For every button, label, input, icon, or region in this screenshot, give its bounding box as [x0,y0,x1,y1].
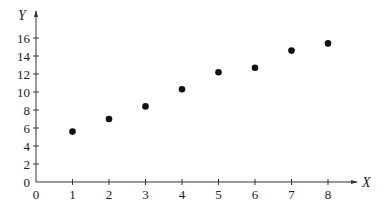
data-point [252,64,259,71]
y-tick-label: 6 [24,121,31,136]
data-point [142,103,149,110]
x-tick-label: 0 [33,187,40,202]
data-point [325,40,332,47]
data-point [215,69,222,76]
x-tick-label: 2 [106,187,113,202]
y-tick-label: 14 [17,49,31,64]
data-point [288,47,295,54]
y-tick-label: 4 [24,139,31,154]
data-point [179,86,186,93]
x-tick-label: 7 [288,187,295,202]
x-axis-label: X [361,175,371,190]
x-tick-label: 6 [252,187,259,202]
y-tick-label: 2 [24,157,31,172]
x-tick-label: 4 [179,187,186,202]
x-tick-label: 1 [69,187,76,202]
data-point [69,128,76,135]
y-tick-label: 16 [17,31,31,46]
data-points [69,40,331,135]
x-tick-label: 8 [325,187,332,202]
y-tick-label: 12 [17,67,30,82]
data-point [106,116,113,123]
axes [36,11,357,182]
y-tick-label: 8 [24,103,31,118]
y-tick-label: 10 [17,85,30,100]
y-axis-label: Y [18,8,28,23]
y-tick-label: 0 [24,175,31,190]
scatter-chart: 012345678 0246810121416 X Y [0,0,389,211]
x-tick-label: 5 [215,187,222,202]
x-tick-label: 3 [142,187,149,202]
